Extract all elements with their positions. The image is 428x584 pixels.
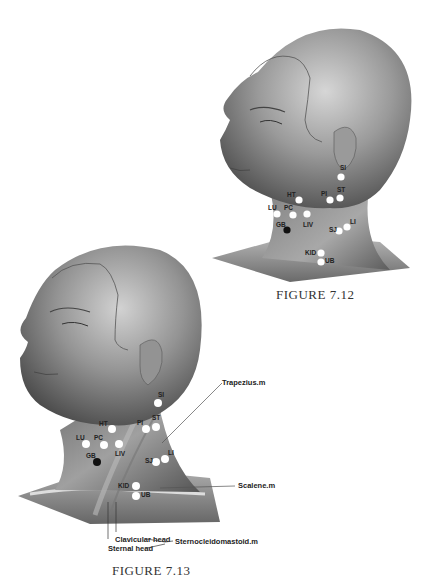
- scm-bracket-lines: [145, 535, 177, 551]
- svg-text:LU: LU: [268, 204, 277, 211]
- svg-text:UB: UB: [141, 491, 151, 498]
- label-scalene: Scalene.m: [238, 481, 275, 490]
- point-pi: [142, 425, 150, 433]
- svg-text:SI: SI: [158, 391, 164, 398]
- svg-text:KID: KID: [118, 482, 130, 489]
- svg-text:LI: LI: [350, 218, 356, 225]
- label-sternocleidomastoid: Sternocleidomastoid.m: [175, 537, 258, 546]
- svg-text:HT: HT: [99, 420, 108, 427]
- point-ht: [108, 425, 116, 433]
- svg-text:HT: HT: [287, 191, 296, 198]
- svg-text:PI: PI: [321, 190, 327, 197]
- svg-text:LU: LU: [76, 434, 85, 441]
- svg-text:PC: PC: [94, 434, 103, 441]
- point-kid: [132, 482, 140, 490]
- svg-text:LI: LI: [168, 449, 174, 456]
- svg-text:GB: GB: [86, 452, 96, 459]
- point-si: [337, 173, 344, 180]
- point-liv: [303, 210, 310, 217]
- point-pc: [289, 211, 296, 218]
- point-li: [161, 455, 169, 463]
- caption-figure-7-13: FIGURE 7.13: [112, 563, 190, 579]
- svg-text:ST: ST: [152, 414, 160, 421]
- point-gb: [93, 458, 101, 466]
- svg-text:LIV: LIV: [115, 450, 126, 457]
- label-trapezius: Trapezius.m: [222, 378, 265, 387]
- svg-text:SJ: SJ: [329, 226, 337, 233]
- svg-text:SI: SI: [340, 164, 346, 171]
- point-pi: [326, 196, 333, 203]
- point-lu: [82, 440, 90, 448]
- point-sj: [152, 458, 160, 466]
- head-illustration-7-13: SI PI ST HT LU PC LIV GB SJ LI KID UB: [0, 240, 428, 540]
- svg-text:GB: GB: [276, 221, 286, 228]
- point-ht: [295, 196, 302, 203]
- point-st: [152, 423, 160, 431]
- svg-text:LIV: LIV: [303, 221, 314, 228]
- point-ub: [132, 492, 140, 500]
- svg-text:SJ: SJ: [145, 457, 153, 464]
- point-st: [336, 194, 343, 201]
- point-si: [154, 399, 162, 407]
- svg-text:ST: ST: [337, 186, 345, 193]
- svg-text:PI: PI: [137, 419, 143, 426]
- point-liv: [115, 440, 123, 448]
- point-pc: [100, 441, 108, 449]
- figure-7-13: SI PI ST HT LU PC LIV GB SJ LI KID UB: [0, 240, 428, 540]
- svg-text:PC: PC: [284, 204, 293, 211]
- point-lu: [273, 210, 280, 217]
